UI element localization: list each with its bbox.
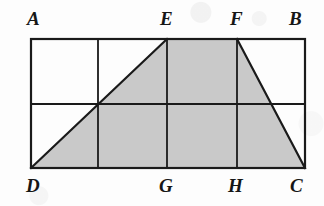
vertex-label-b: B — [289, 9, 302, 28]
vertex-label-h: H — [228, 176, 243, 195]
vertex-label-a: A — [27, 9, 40, 28]
vertex-label-e: E — [160, 9, 173, 28]
geometry-figure: A E F B D G H C — [0, 0, 324, 206]
vertex-label-f: F — [230, 9, 243, 28]
vertex-label-c: C — [290, 176, 303, 195]
vertex-label-d: D — [26, 176, 40, 195]
vertex-label-g: G — [159, 176, 173, 195]
